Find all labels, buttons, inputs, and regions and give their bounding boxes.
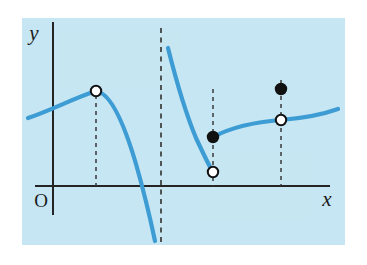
point-local-max-open	[91, 86, 101, 96]
x-axis-label: x	[321, 187, 332, 211]
origin-label: O	[34, 190, 48, 211]
point-middle-branch-end-open	[208, 167, 218, 177]
point-right-branch-start-filled	[208, 132, 218, 142]
graph-canvas: y x O	[0, 0, 367, 265]
point-right-limit-open	[276, 115, 286, 125]
y-axis-label: y	[27, 21, 39, 45]
function-graph-figure: y x O	[0, 0, 367, 265]
point-right-value-filled	[276, 84, 286, 94]
